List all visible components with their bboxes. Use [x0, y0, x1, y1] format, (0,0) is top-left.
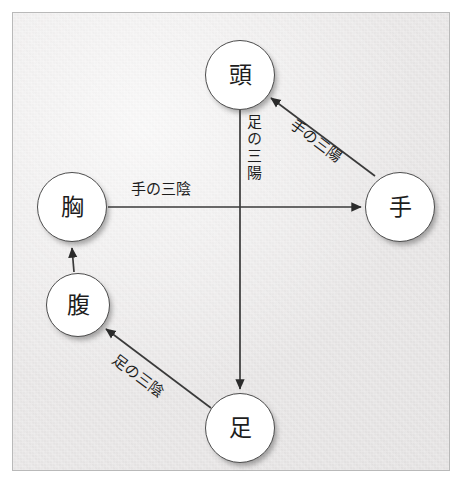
- node-label-atama: 頭: [229, 64, 252, 87]
- node-label-ashi: 足: [229, 417, 252, 440]
- node-ashi[interactable]: 足: [205, 393, 275, 463]
- diagram-page: 頭 手 胸 腹 足 手の三陰 手の三陽 足の三陽 足の三陰: [0, 0, 463, 484]
- node-label-te: 手: [389, 196, 412, 219]
- node-label-mune: 胸: [61, 196, 84, 219]
- node-mune[interactable]: 胸: [37, 172, 107, 242]
- edge-label-mune-to-te: 手の三陰: [131, 182, 191, 197]
- node-atama[interactable]: 頭: [205, 40, 275, 110]
- node-hara[interactable]: 腹: [46, 273, 110, 337]
- node-te[interactable]: 手: [365, 172, 435, 242]
- edge-hara-to-mune: [72, 248, 74, 272]
- edge-label-atama-to-ashi: 足の三陽: [245, 114, 260, 182]
- node-label-hara: 腹: [67, 294, 90, 317]
